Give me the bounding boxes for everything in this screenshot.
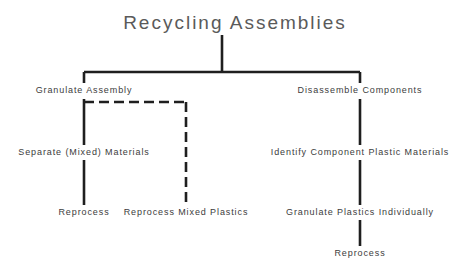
node-granulate-assembly: Granulate Assembly [36, 86, 133, 95]
node-identify-component-plastics: Identify Component Plastic Materials [271, 148, 449, 157]
node-reprocess-mixed-plastics: Reprocess Mixed Plastics [124, 208, 249, 217]
diagram-title: Recycling Assemblies [123, 13, 347, 32]
node-granulate-plastics-individually: Granulate Plastics Individually [286, 208, 434, 217]
recycling-assemblies-diagram: Recycling Assemblies Granulate AssemblyS… [0, 0, 470, 276]
node-reprocess-left: Reprocess [58, 208, 109, 217]
diagram-connector-lines [0, 0, 470, 276]
node-reprocess-right: Reprocess [334, 249, 385, 258]
node-disassemble-components: Disassemble Components [298, 86, 423, 95]
node-separate-mixed-materials: Separate (Mixed) Materials [18, 148, 149, 157]
